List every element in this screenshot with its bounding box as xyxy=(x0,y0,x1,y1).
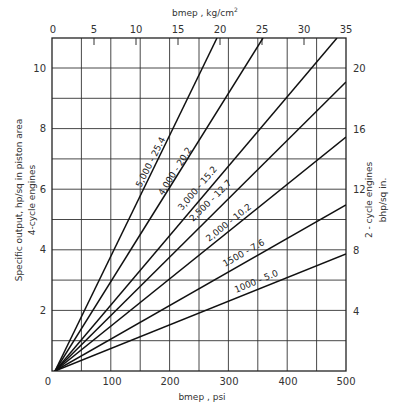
right-axis-title: 2 - cycle engines xyxy=(364,162,374,239)
left-axis-title: Specific output, hp/sq in piston area xyxy=(14,119,24,282)
svg-text:30: 30 xyxy=(298,24,311,35)
svg-text:5: 5 xyxy=(91,24,97,35)
line-1000 xyxy=(55,254,346,371)
right-axis: 4 8 12 16 20 2 - cycle engines bhp/sq in… xyxy=(353,63,388,317)
right-axis-subtitle: bhp/sq in. xyxy=(378,178,388,223)
svg-text:8: 8 xyxy=(40,123,46,134)
line-5000 xyxy=(55,38,217,371)
svg-text:10: 10 xyxy=(33,63,46,74)
line-4000 xyxy=(55,38,263,371)
left-axis-subtitle: 4-cycle engines xyxy=(27,164,37,235)
svg-text:4: 4 xyxy=(353,306,359,317)
svg-text:25: 25 xyxy=(256,24,269,35)
svg-text:16: 16 xyxy=(353,124,366,135)
bottom-axis-title: bmep , psi xyxy=(178,392,225,402)
svg-text:20: 20 xyxy=(353,63,366,74)
svg-text:500: 500 xyxy=(336,376,355,387)
svg-text:0: 0 xyxy=(50,24,56,35)
svg-text:35: 35 xyxy=(340,24,353,35)
svg-text:8: 8 xyxy=(353,245,359,256)
chart: 5,000 - 25.4 4,000 - 20.2 3,000 - 15.2 2… xyxy=(0,0,402,410)
top-axis: bmep , kg/cm2 0 5 10 15 20 25 30 35 xyxy=(50,6,353,35)
svg-text:0: 0 xyxy=(45,376,51,387)
svg-text:100: 100 xyxy=(102,376,121,387)
svg-text:400: 400 xyxy=(278,376,297,387)
svg-text:200: 200 xyxy=(160,376,179,387)
line-2500 xyxy=(55,82,346,371)
line-3000 xyxy=(55,38,337,371)
line-2000 xyxy=(55,137,346,371)
top-axis-title: bmep , kg/cm2 xyxy=(172,6,238,18)
svg-text:2: 2 xyxy=(40,305,46,316)
svg-text:20: 20 xyxy=(214,24,227,35)
svg-text:15: 15 xyxy=(172,24,185,35)
svg-text:300: 300 xyxy=(219,376,238,387)
svg-text:6: 6 xyxy=(40,184,46,195)
svg-text:10: 10 xyxy=(130,24,143,35)
line-1500 xyxy=(55,205,346,371)
bottom-axis: 0 100 200 300 400 500 bmep , psi xyxy=(45,376,356,402)
left-axis: 2 4 6 8 10 Specific output, hp/sq in pis… xyxy=(14,63,46,316)
svg-text:4: 4 xyxy=(40,244,46,255)
